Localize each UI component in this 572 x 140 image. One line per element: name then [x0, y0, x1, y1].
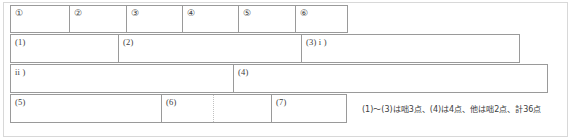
- answer-cell-q6-continuation[interactable]: [213, 95, 271, 122]
- answer-cell-label: ii ): [15, 67, 25, 77]
- answer-cell-label: ③: [131, 8, 139, 18]
- answer-cell-q4[interactable]: (4): [233, 65, 549, 92]
- answer-sheet: ① ② ③ ④ ⑤ ⑥ (1) (2) (3) i ) ii ): [0, 0, 572, 140]
- answer-row-5-6-7: (5) (6) (7): [10, 94, 347, 123]
- answer-cell-label: ⑤: [243, 8, 251, 18]
- answer-cell-label: ②: [74, 8, 82, 18]
- answer-cell-label: (1): [15, 37, 26, 47]
- answer-cell-label: ⑥: [300, 8, 308, 18]
- answer-cell-circled-5[interactable]: ⑤: [238, 6, 295, 32]
- answer-cell-label: (3) i ): [306, 37, 327, 47]
- answer-cell-q1[interactable]: (1): [11, 35, 118, 62]
- answer-row-circled: ① ② ③ ④ ⑤ ⑥: [10, 5, 348, 33]
- answer-cell-circled-4[interactable]: ④: [182, 6, 238, 32]
- answer-cell-q6[interactable]: (6): [161, 95, 213, 122]
- answer-cell-label: (2): [123, 37, 134, 47]
- answer-cell-label: (4): [238, 67, 249, 77]
- answer-cell-circled-2[interactable]: ②: [69, 6, 126, 32]
- answer-cell-q3-i[interactable]: (3) i ): [301, 35, 521, 62]
- answer-cell-label: (7): [276, 97, 287, 107]
- answer-cell-circled-6[interactable]: ⑥: [295, 6, 349, 32]
- answer-cell-label: ④: [187, 8, 195, 18]
- answer-cell-q2[interactable]: (2): [118, 35, 301, 62]
- answer-cell-label: ①: [15, 8, 23, 18]
- score-note: (1)～(3)は咄3点、(4)は4点、他は咄2点、計36点: [362, 104, 541, 115]
- answer-row-1-2-3: (1) (2) (3) i ): [10, 34, 520, 63]
- answer-cell-label: (5): [15, 97, 26, 107]
- answer-cell-circled-3[interactable]: ③: [126, 6, 182, 32]
- answer-cell-q5[interactable]: (5): [11, 95, 161, 122]
- answer-cell-circled-1[interactable]: ①: [11, 6, 69, 32]
- answer-cell-label: (6): [166, 97, 177, 107]
- answer-cell-q3-ii[interactable]: ii ): [11, 65, 233, 92]
- answer-cell-q7[interactable]: (7): [271, 95, 348, 122]
- answer-row-ii-4: ii ) (4): [10, 64, 548, 93]
